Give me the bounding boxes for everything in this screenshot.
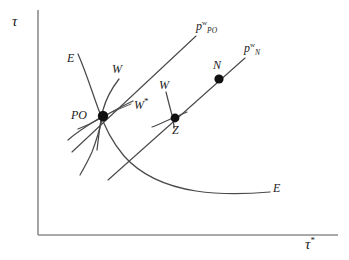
w-curve-z-label: W (159, 79, 169, 91)
point-n-label: N (213, 59, 221, 71)
price-line-po-label-sub: PO (207, 26, 217, 35)
x-axis-label: τ* (305, 236, 315, 252)
point-po-marker (98, 111, 108, 121)
point-po-label: PO (71, 109, 87, 121)
price-line-n-label-sub: N (255, 48, 260, 57)
y-axis-label: τ (12, 14, 17, 29)
price-line-po-label: pwPO (196, 20, 217, 35)
e-curve-lower-label: E (273, 182, 280, 194)
w-star-curve-label-star: * (144, 96, 149, 106)
w-star-curve-label: W* (134, 97, 149, 111)
e-curve-upper-label: E (67, 52, 74, 64)
point-n-marker (214, 74, 223, 83)
point-z-label: Z (172, 124, 179, 136)
x-axis-label-star: * (310, 235, 315, 245)
w-star-curve-label-w: W (134, 98, 144, 112)
price-line-n-label: pwN (244, 42, 260, 57)
w-curve-po-label: W (112, 63, 122, 75)
economics-diagram: τ τ* E E W W* W PO Z N pwPO pwN (0, 0, 349, 260)
point-z-marker (171, 114, 180, 123)
w-curve-po-lower-tail (80, 116, 103, 175)
